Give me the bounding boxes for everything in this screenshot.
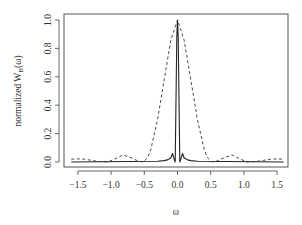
x-tick-label: −0.5: [136, 180, 153, 190]
y-tick-label: 0.8: [43, 42, 53, 54]
y-tick-label: 0.6: [43, 71, 53, 83]
series-group: [71, 20, 283, 162]
y-tick-label: 0.0: [43, 156, 53, 168]
x-tick-label: 1.0: [238, 180, 250, 190]
line-chart: −1.5−1.0−0.50.00.51.01.5 0.00.20.40.60.8…: [0, 0, 302, 225]
y-axis-title-main: normalized W: [13, 73, 23, 127]
x-tick-label: −1.5: [69, 180, 86, 190]
y-axis: 0.00.20.40.60.81.0: [43, 14, 59, 168]
y-tick-label: 0.2: [43, 127, 53, 139]
y-tick-label: 1.0: [43, 14, 53, 26]
y-tick-label: 0.4: [43, 99, 53, 111]
x-tick-label: 1.5: [271, 180, 283, 190]
x-axis-title: ω: [173, 207, 179, 217]
y-axis-title: normalized WB(ω): [13, 55, 25, 126]
x-tick-label: 0.0: [172, 180, 184, 190]
solid-series-line: [71, 20, 283, 162]
x-tick-label: 0.5: [205, 180, 217, 190]
x-tick-label: −1.0: [102, 180, 119, 190]
y-axis-title-tail: (ω): [13, 55, 24, 68]
x-axis: −1.5−1.0−0.50.00.51.01.5: [69, 171, 283, 190]
dashed-series-line: [71, 20, 283, 162]
